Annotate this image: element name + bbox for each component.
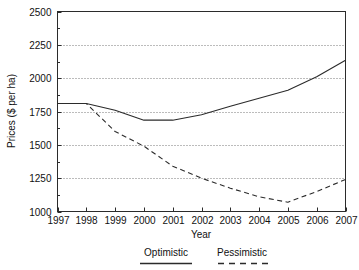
y-axis-title: Prices ($ per ha) [6, 74, 17, 148]
grid-lines [58, 46, 346, 179]
y-tick-label: 1750 [29, 107, 52, 118]
x-axis-ticks [59, 208, 347, 212]
y-tick-label: 1500 [29, 140, 52, 151]
x-tick-label: 1998 [75, 215, 98, 226]
legend-label-pessimistic: Pessimistic [217, 247, 267, 258]
chart-legend: Optimistic Pessimistic [140, 247, 268, 264]
series-line-pessimistic [58, 104, 346, 203]
y-tick-label: 1250 [29, 173, 52, 184]
x-tick-label: 2003 [219, 215, 242, 226]
price-projection-chart: 1000125015001750200022502500 19971998199… [0, 0, 359, 270]
x-tick-label: 2002 [191, 215, 214, 226]
x-tick-label: 2004 [248, 215, 271, 226]
x-tick-label: 2001 [162, 215, 185, 226]
x-tick-label: 1999 [104, 215, 127, 226]
x-tick-label: 2000 [133, 215, 156, 226]
y-tick-label: 2500 [29, 7, 52, 18]
x-tick-label: 2005 [277, 215, 300, 226]
series-line-optimistic [58, 60, 346, 120]
x-tick-label: 2006 [306, 215, 329, 226]
legend-label-optimistic: Optimistic [144, 247, 188, 258]
x-axis-tick-labels: 1997199819992000200120022003200420052006… [47, 215, 358, 226]
x-tick-label: 1997 [47, 215, 70, 226]
y-axis-tick-labels: 1000125015001750200022502500 [29, 7, 52, 218]
x-tick-label: 2007 [335, 215, 358, 226]
plot-area-frame [58, 12, 346, 212]
y-axis-ticks [58, 13, 62, 213]
y-tick-label: 2250 [29, 40, 52, 51]
y-tick-label: 2000 [29, 73, 52, 84]
x-axis-title: Year [191, 229, 212, 240]
chart-canvas: 1000125015001750200022502500 19971998199… [0, 0, 359, 270]
